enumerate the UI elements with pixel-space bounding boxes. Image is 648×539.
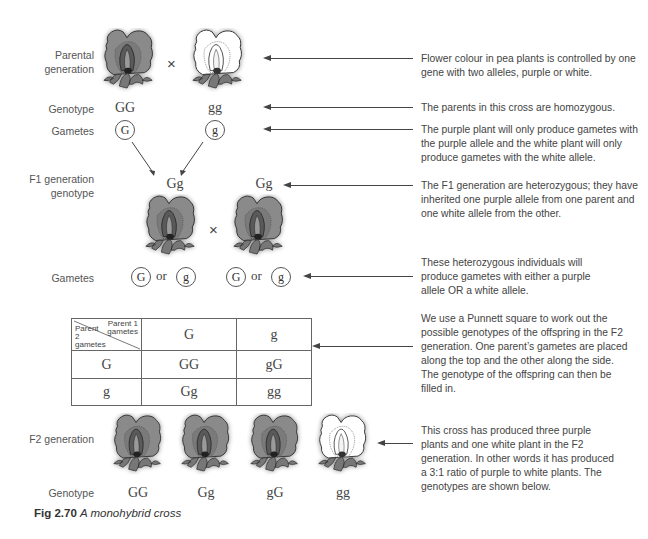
arrow-head-icon bbox=[283, 182, 291, 188]
f1-genotype: Gg bbox=[244, 176, 284, 192]
gamete-circle: g bbox=[205, 120, 225, 140]
genotype-label: Genotype bbox=[10, 102, 94, 116]
f2-genotype-label: Genotype bbox=[10, 486, 94, 500]
corner-bottom-label: Parent 2 gametes bbox=[75, 325, 105, 349]
f1-generation-label: F1 generation genotype bbox=[10, 172, 94, 200]
or-word: or bbox=[156, 268, 167, 284]
f2-generation-label: F2 generation bbox=[10, 432, 94, 446]
arrow-head-icon bbox=[303, 273, 311, 279]
pointer-arrow bbox=[263, 58, 413, 59]
punnett-cell: gG bbox=[237, 351, 312, 379]
note-punnett: We use a Punnett square to work out the … bbox=[421, 312, 633, 396]
purple-flower-icon bbox=[230, 194, 288, 258]
cross-symbol: × bbox=[167, 55, 176, 72]
note-homozygous: The parents in this cross are homozygous… bbox=[421, 101, 646, 115]
arrow-head-icon bbox=[377, 440, 385, 446]
row-header: g bbox=[72, 379, 142, 406]
arrow-head-icon bbox=[263, 104, 271, 110]
gamete-circle: G bbox=[115, 120, 135, 140]
arrow-head-icon bbox=[263, 126, 271, 132]
figure-caption: Fig 2.70 A monohybrid cross bbox=[34, 507, 181, 519]
white-flower-icon bbox=[189, 28, 247, 92]
or-word: or bbox=[251, 268, 262, 284]
pointer-arrow bbox=[263, 129, 413, 130]
arrow-head-icon bbox=[263, 55, 271, 61]
gamete-circle: G bbox=[226, 267, 246, 287]
row-header: G bbox=[72, 351, 142, 379]
pointer-arrow bbox=[283, 185, 413, 186]
pointer-arrow bbox=[263, 107, 413, 108]
column-header: G bbox=[142, 319, 237, 351]
pointer-arrow bbox=[377, 443, 413, 444]
note-f1-gametes: These heterozygous individuals will prod… bbox=[421, 256, 591, 298]
arrow-head-icon bbox=[312, 343, 320, 349]
f2-genotype: Gg bbox=[186, 485, 226, 501]
note-f1-heterozygous: The F1 generation are heterozygous; they… bbox=[421, 179, 646, 221]
parent-genotype: GG bbox=[105, 100, 145, 116]
f1-gametes-label: Gametes bbox=[10, 271, 94, 285]
punnett-corner-cell: Parent 1 gametes Parent 2 gametes bbox=[72, 319, 142, 351]
figure-title: A monohybrid cross bbox=[80, 507, 181, 519]
corner-top-label: Parent 1 gametes bbox=[102, 320, 138, 336]
f2-genotype: gg bbox=[323, 485, 363, 501]
parent-genotype: gg bbox=[195, 100, 235, 116]
note-parent-gametes: The purple plant will only produce gamet… bbox=[421, 123, 646, 165]
f2-genotype: GG bbox=[118, 485, 158, 501]
purple-flower-icon bbox=[100, 28, 158, 92]
note-alleles: Flower colour in pea plants is controlle… bbox=[421, 52, 646, 80]
purple-flower-icon bbox=[178, 413, 234, 475]
white-flower-icon bbox=[315, 413, 371, 475]
gamete-circle: g bbox=[176, 267, 196, 287]
purple-flower-icon bbox=[110, 413, 166, 475]
punnett-cell: Gg bbox=[142, 379, 237, 406]
punnett-cell: GG bbox=[142, 351, 237, 379]
pointer-arrow bbox=[312, 346, 413, 347]
f1-genotype: Gg bbox=[155, 176, 195, 192]
figure-number: Fig 2.70 bbox=[34, 507, 77, 519]
note-f2-ratio: This cross has produced three purple pla… bbox=[421, 424, 621, 494]
purple-flower-icon bbox=[247, 413, 303, 475]
column-header: g bbox=[237, 319, 312, 351]
cross-symbol: × bbox=[209, 221, 218, 238]
punnett-cell: gg bbox=[237, 379, 312, 406]
gametes-label: Gametes bbox=[10, 124, 94, 138]
punnett-square: Parent 1 gametes Parent 2 gametes G g G … bbox=[71, 318, 312, 406]
parental-generation-label: Parental generation bbox=[10, 48, 94, 76]
f2-genotype: gG bbox=[255, 485, 295, 501]
pointer-arrow bbox=[303, 276, 413, 277]
gamete-circle: g bbox=[271, 267, 291, 287]
gamete-circle: G bbox=[131, 267, 151, 287]
purple-flower-icon bbox=[142, 194, 200, 258]
